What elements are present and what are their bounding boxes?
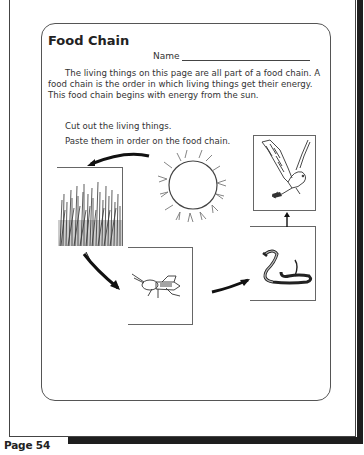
snake-icon <box>255 248 315 292</box>
arrow-grass-to-grasshopper-icon <box>82 252 122 292</box>
page-shadow-bottom <box>68 437 363 444</box>
grasshopper-icon <box>128 272 188 302</box>
page-number: Page 54 <box>4 439 50 451</box>
arrow-grasshopper-to-snake-icon <box>210 276 252 296</box>
instruction-paste: Paste them in order on the food chain. <box>65 136 230 146</box>
name-label: Name <box>153 51 180 61</box>
arrow-sun-to-grass-icon <box>85 150 150 170</box>
name-field-row: Name <box>153 51 310 61</box>
grass-icon <box>58 180 122 246</box>
worksheet-title: Food Chain <box>48 33 129 48</box>
name-field[interactable] <box>182 51 310 61</box>
page-shadow-right <box>357 0 363 444</box>
instruction-cut: Cut out the living things. <box>65 121 171 131</box>
arrow-snake-to-hawk-icon <box>283 212 291 227</box>
hawk-icon <box>258 138 314 206</box>
intro-paragraph: The living things on this page are all p… <box>48 68 324 101</box>
sun-icon <box>150 148 230 228</box>
